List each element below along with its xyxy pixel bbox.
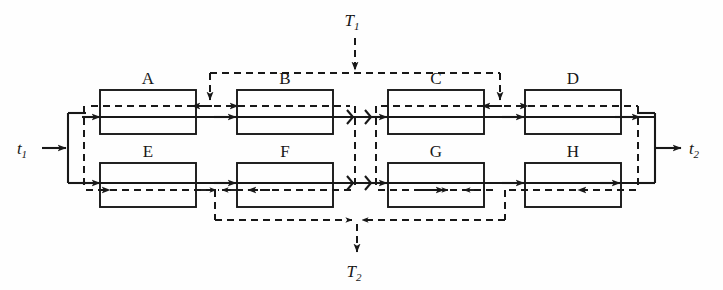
flow-labels: t1 t2 T1 T2 (17, 11, 700, 283)
section-boxes (100, 90, 621, 207)
secondary-stream-path (84, 38, 638, 252)
diagram-canvas: A B C D E F G H t1 t2 T1 T2 (0, 0, 723, 290)
section-labels: A B C D E F G H (142, 69, 579, 161)
section-box-b (237, 90, 333, 134)
section-label-f: F (280, 142, 289, 161)
label-t2-sub: 2 (694, 148, 700, 160)
section-label-h: H (567, 142, 579, 161)
section-label-g: G (430, 142, 442, 161)
section-label-b: B (279, 69, 290, 88)
label-T1-sub: 1 (354, 20, 360, 32)
section-label-e: E (143, 142, 153, 161)
label-t1: t1 (17, 139, 27, 160)
section-box-f (237, 163, 333, 207)
label-t1-sub: 1 (22, 148, 28, 160)
label-T1: T1 (345, 11, 360, 32)
section-label-a: A (142, 69, 155, 88)
section-label-d: D (567, 69, 579, 88)
section-box-e (100, 163, 196, 207)
section-box-c (388, 90, 484, 134)
section-box-a (100, 90, 196, 134)
section-box-g (388, 163, 484, 207)
figure-root: A B C D E F G H t1 t2 T1 T2 (0, 0, 723, 290)
section-label-c: C (430, 69, 441, 88)
label-t2: t2 (689, 139, 700, 160)
section-box-d (525, 90, 621, 134)
caption-strip (0, 272, 723, 290)
section-box-h (525, 163, 621, 207)
primary-stream-path (42, 110, 681, 190)
